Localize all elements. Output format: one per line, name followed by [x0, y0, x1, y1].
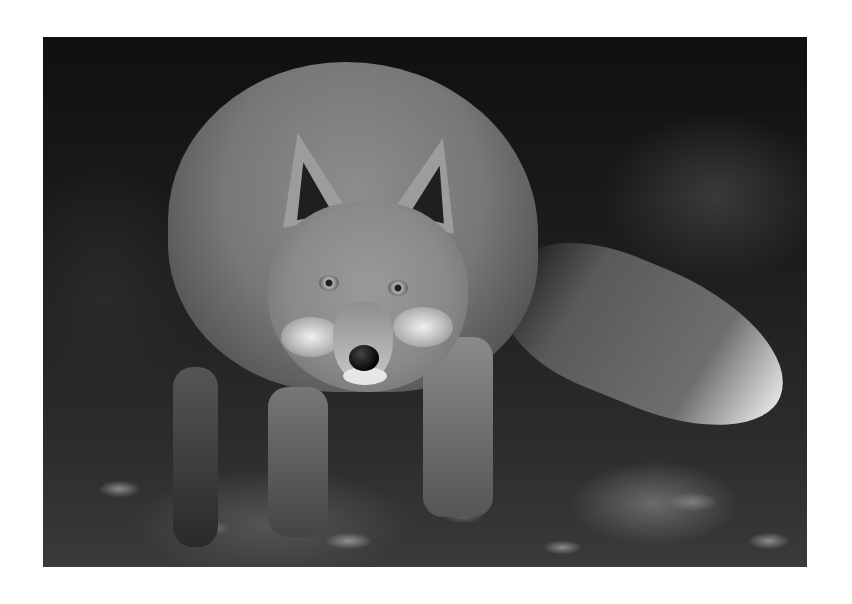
- fox-leg-left: [173, 367, 218, 547]
- fox-eye-right: [388, 280, 408, 296]
- fox-leg-front: [268, 387, 328, 537]
- fox-cheek-left: [281, 317, 341, 357]
- fox-photograph: [43, 37, 807, 567]
- fox-cheek-right: [393, 307, 453, 347]
- fox-nose: [349, 345, 379, 371]
- fox-eye-left: [319, 275, 339, 291]
